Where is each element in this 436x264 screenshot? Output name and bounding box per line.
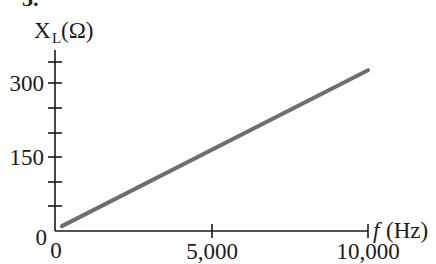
figure-label: 3. xyxy=(22,0,39,11)
y-axis-label-unit: (Ω) xyxy=(61,18,93,43)
y-tick-label-150: 150 xyxy=(10,145,45,170)
y-tick-label-0: 0 xyxy=(36,225,48,250)
x-axis-label-unit: (Hz) xyxy=(386,218,428,243)
y-axis-label: X L (Ω) xyxy=(34,18,93,46)
y-tick-label-300: 300 xyxy=(10,71,45,96)
y-axis-label-main: X xyxy=(34,18,51,43)
reactance-chart: 3. 300 150 0 0 5,000 10,000 X L (Ω) f (H… xyxy=(0,0,436,264)
y-axis-label-subscript: L xyxy=(52,30,61,46)
x-tick-label-5000: 5,000 xyxy=(186,239,238,264)
reactance-line xyxy=(62,70,368,226)
x-tick-label-0: 0 xyxy=(50,238,62,263)
